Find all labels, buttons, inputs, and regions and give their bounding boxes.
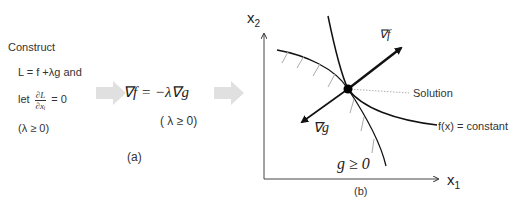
flow-arrow-1	[96, 81, 126, 105]
diagram-canvas	[0, 0, 517, 210]
grad-g-arrow	[302, 89, 348, 122]
flow-arrow-2	[214, 81, 244, 105]
solution-point	[344, 85, 353, 94]
constraint-curve	[277, 50, 386, 166]
solution-leader	[348, 89, 409, 93]
objective-contour	[328, 16, 437, 125]
axes	[264, 34, 438, 179]
grad-f-arrow	[348, 48, 401, 89]
